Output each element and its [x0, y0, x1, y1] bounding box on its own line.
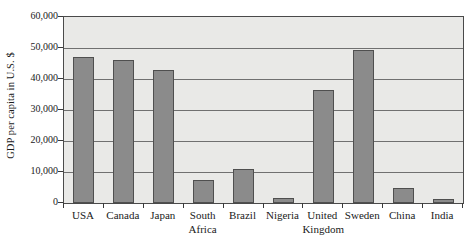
x-axis-tick-mark: [263, 203, 264, 208]
y-axis-tick-label: 40,000: [18, 73, 58, 83]
x-axis-tick-label: Canada: [103, 209, 143, 223]
x-axis-tick-label-line: South: [190, 209, 216, 221]
x-axis-tick-mark: [462, 203, 463, 208]
bar: [153, 70, 174, 203]
x-axis-tick-mark: [143, 203, 144, 208]
y-axis-tick-label: 0: [18, 197, 58, 207]
y-axis-tick-label: 30,000: [18, 104, 58, 114]
x-axis-tick-mark: [302, 203, 303, 208]
x-axis-tick-mark: [342, 203, 343, 208]
x-axis-tick-label: China: [382, 209, 422, 223]
x-axis-tick-label-line: Japan: [150, 209, 175, 221]
x-axis-tick-mark: [422, 203, 423, 208]
x-axis-tick-label-line: Brazil: [229, 209, 256, 221]
x-axis-tick-label: India: [422, 209, 462, 223]
bar: [113, 60, 134, 203]
x-axis-tick-label-line: Kingdom: [302, 223, 342, 237]
x-axis-tick-mark: [63, 203, 64, 208]
plot-area: [63, 16, 464, 204]
x-axis-tick-label-line: Nigeria: [266, 209, 299, 221]
x-axis-tick-label: Japan: [143, 209, 183, 223]
x-axis-tick-label: UnitedKingdom: [302, 209, 342, 236]
x-axis-tick-label-line: Canada: [106, 209, 139, 221]
bar: [73, 57, 94, 203]
x-axis-tick-label: USA: [63, 209, 103, 223]
y-axis-tick-label: 20,000: [18, 135, 58, 145]
x-axis-tick-mark: [183, 203, 184, 208]
bar-chart-figure: GDP per capita in U.S. $ 010,00020,00030…: [0, 0, 470, 249]
y-axis-tick-label: 50,000: [18, 42, 58, 52]
bar: [353, 50, 374, 203]
x-axis-tick-marks: [63, 203, 464, 208]
x-axis-tick-label-line: United: [307, 209, 337, 221]
y-axis-tick-label: 10,000: [18, 166, 58, 176]
x-axis-tick-label: SouthAfrica: [183, 209, 223, 236]
x-axis-tick-label-line: USA: [72, 209, 94, 221]
bars-layer: [64, 17, 463, 203]
y-axis-tick-labels: 010,00020,00030,00040,00050,00060,000: [18, 16, 58, 202]
y-axis-title-text: GDP per capita in U.S. $: [5, 52, 16, 159]
x-axis-tick-label: Sweden: [342, 209, 382, 223]
y-axis-title: GDP per capita in U.S. $: [0, 0, 20, 210]
bar: [193, 180, 214, 203]
y-axis-tick-label: 60,000: [18, 11, 58, 21]
x-axis-tick-mark: [103, 203, 104, 208]
x-axis-tick-label: Brazil: [223, 209, 263, 223]
bar: [393, 188, 414, 204]
x-axis-tick-label: Nigeria: [263, 209, 303, 223]
x-axis-tick-mark: [382, 203, 383, 208]
x-axis-tick-label-line: Africa: [183, 223, 223, 237]
bar: [233, 169, 254, 203]
x-axis-tick-label-line: China: [389, 209, 415, 221]
x-axis-tick-mark: [223, 203, 224, 208]
x-axis-tick-label-line: India: [431, 209, 454, 221]
x-axis-tick-labels: USACanadaJapanSouthAfricaBrazilNigeriaUn…: [63, 209, 462, 249]
bar: [313, 90, 334, 203]
x-axis-tick-label-line: Sweden: [345, 209, 380, 221]
